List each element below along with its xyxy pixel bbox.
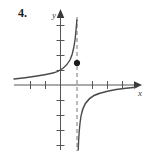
graph-plot: y x bbox=[0, 0, 151, 154]
y-axis-arrow-icon bbox=[57, 9, 65, 18]
figure-container: 4. bbox=[0, 0, 151, 154]
y-axis-label: y bbox=[51, 10, 56, 20]
filled-point-marker bbox=[74, 60, 80, 66]
curve-left-branch bbox=[14, 20, 77, 79]
x-axis-label: x bbox=[137, 88, 142, 98]
curve-right-branch bbox=[78, 87, 136, 150]
